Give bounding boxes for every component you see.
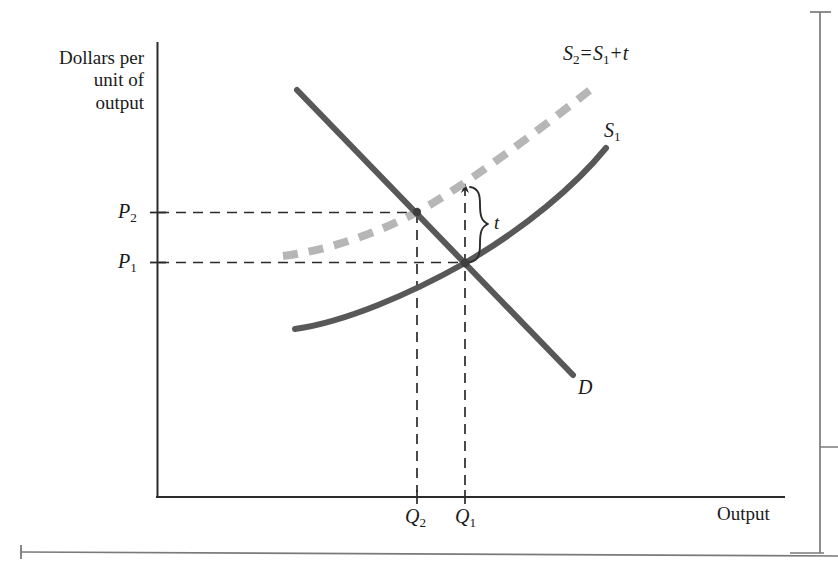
quantity-tick-q1-base: Q [455,505,469,527]
supply-taxed-base: S [563,42,573,64]
quantity-tick-label-q1: Q1 [455,505,476,529]
y-axis-title-line-1: Dollars per [24,47,144,69]
y-axis-title-line-3: output [24,92,144,114]
supply-taxed-tax: t [623,42,629,64]
supply-taxed-equals: = [580,42,593,64]
quantity-tick-q1-sub: 1 [469,515,476,530]
supply-curve-original [295,148,606,329]
y-axis-title-line-2: unit of [24,69,144,91]
supply-taxed-rhs-base: S [593,42,603,64]
quantity-tick-q2-sub: 2 [419,515,426,530]
price-tick-p1-base: P [118,250,130,272]
curve-label-supply-taxed: S2=S1+t [563,42,628,66]
curve-label-supply-original: S1 [604,119,621,143]
demand-curve [297,90,573,375]
price-tick-label-p2: P2 [118,200,137,224]
curve-label-demand: D [578,376,592,400]
price-tick-label-p1: P1 [118,250,137,274]
figure-root: Dollars per unit of output Output P2 P1 … [0,0,838,582]
supply-taxed-sub: 2 [573,52,580,67]
x-axis-title: Output [717,503,770,525]
measurement-rule-bottom [21,545,838,559]
equilibrium-point-2 [413,208,421,216]
price-tick-p2-sub: 2 [130,210,137,225]
y-axis-title: Dollars per unit of output [24,47,144,114]
measurement-rule-right [790,12,838,553]
equilibrium-point-1 [461,259,470,268]
guide-lines [159,186,465,492]
supply-original-sub: 1 [614,129,621,144]
supply-taxed-plus: + [609,42,622,64]
price-tick-p1-sub: 1 [130,260,137,275]
price-tick-p2-base: P [118,200,130,222]
quantity-tick-label-q2: Q2 [405,505,426,529]
tax-brace-label: t [494,212,499,234]
quantity-tick-q2-base: Q [405,505,419,527]
supply-original-base: S [604,119,614,141]
